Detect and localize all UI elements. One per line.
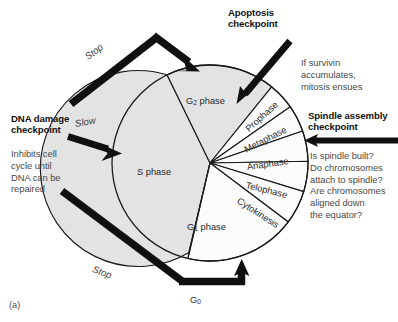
spindle-body-line2: Do chromosomes — [310, 162, 398, 174]
apoptosis-checkpoint-body: If survivin accumulates, mitosis ensues — [301, 57, 397, 92]
apoptosis-title-line2: checkpoint — [228, 18, 338, 29]
spindle-body-line6: the equator? — [310, 209, 398, 221]
dna-damage-body-line1: Inhibits cell — [11, 148, 121, 160]
figure-canvas: G2 phase S phase G1 phase Prophase Metap… — [0, 0, 398, 322]
apoptosis-body-line3: mitosis ensues — [301, 81, 397, 93]
slice-label-s-phase: S phase — [137, 167, 171, 177]
spindle-arrow — [304, 134, 398, 147]
dna-damage-checkpoint-body: Inhibits cell cycle until DNA can be rep… — [11, 148, 121, 195]
spindle-body-line4: Are chromosomes — [310, 185, 398, 197]
dna-damage-body-line2: cycle until — [11, 160, 121, 172]
g2-tail: phase — [197, 96, 225, 106]
apoptosis-body-line2: accumulates, — [301, 69, 397, 81]
dna-damage-checkpoint-title: DNA damage checkpoint — [11, 113, 116, 136]
g1-tail: phase — [198, 222, 226, 232]
apoptosis-title-line1: Apoptosis — [228, 7, 338, 18]
dna-damage-title-line2: checkpoint — [11, 124, 116, 135]
apoptosis-checkpoint-title: Apoptosis checkpoint — [228, 7, 338, 30]
slice-label-g2-phase: G2 phase — [186, 96, 225, 106]
spindle-checkpoint-title: Spindle assembly checkpoint — [308, 110, 398, 133]
dna-damage-body-line3: DNA can be — [11, 172, 121, 184]
spindle-body-line5: aligned down — [310, 197, 398, 209]
g-zero-label: G0 — [190, 295, 201, 305]
panel-label: (a) — [9, 300, 20, 310]
apoptosis-body-line1: If survivin — [301, 57, 397, 69]
spindle-checkpoint-body: Is spindle built? Do chromosomes attach … — [310, 150, 398, 221]
spindle-body-line3: attach to spindle? — [310, 174, 398, 186]
dna-damage-body-line4: repaired — [11, 183, 121, 195]
slice-label-g1-phase: G1 phase — [187, 222, 226, 232]
spindle-body-line1: Is spindle built? — [310, 150, 398, 162]
g-zero-subscript: 0 — [197, 298, 201, 305]
spindle-title-line1: Spindle assembly — [308, 110, 398, 121]
dna-damage-title-line1: DNA damage — [11, 113, 116, 124]
spindle-title-line2: checkpoint — [308, 121, 398, 132]
